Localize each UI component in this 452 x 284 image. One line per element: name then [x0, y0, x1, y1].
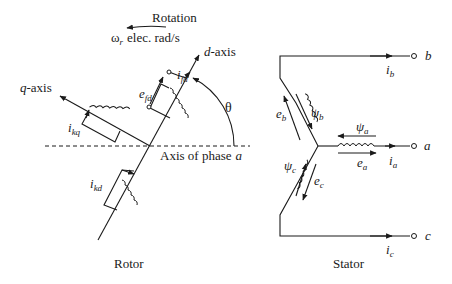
terminal-c-label: c [425, 228, 431, 243]
rotor-section: Rotation ωrelec. rad/s Axis of phasea d-… [20, 10, 250, 271]
ib-label: ib [386, 62, 395, 79]
psic-label: ψc [284, 158, 296, 175]
psib-arrow-icon [296, 94, 312, 129]
field-winding: efd ifd [139, 67, 190, 118]
rotor-caption: Rotor [114, 256, 144, 271]
efd-label: efd [139, 86, 152, 103]
terminal-a[interactable] [412, 144, 417, 149]
terminal-a-label: a [424, 138, 431, 153]
ec-label: ec [314, 173, 324, 190]
ikd-label: ikd [90, 176, 103, 193]
rotation-indicator: Rotation ωrelec. rad/s [111, 10, 197, 47]
terminal-b[interactable] [412, 54, 417, 59]
stator-section: b ib eb ψb a ψa ea ia [276, 48, 432, 271]
synchronous-machine-diagram: Rotation ωrelec. rad/s Axis of phasea d-… [0, 0, 452, 284]
ic-label: ic [386, 242, 394, 259]
rotation-arrow-icon [127, 26, 166, 28]
kd-damper-winding: ikd [90, 170, 137, 210]
efd-arrow-icon [150, 77, 163, 104]
d-axis-label: d-axis [204, 44, 236, 59]
psic-arrow-icon [296, 164, 306, 196]
q-axis-line [60, 96, 150, 146]
rotation-label: Rotation [152, 10, 197, 25]
psib-label: ψb [311, 105, 324, 122]
ikq-label: ikq [68, 120, 81, 137]
field-terminal-lower[interactable] [147, 105, 151, 109]
field-terminal-upper[interactable] [167, 70, 171, 74]
q-axis-label: q-axis [20, 80, 52, 95]
psia-label: ψa [356, 119, 369, 136]
eb-label: eb [276, 106, 287, 123]
phase-axis-label: Axis of phasea [160, 148, 243, 163]
phase-a-coil-icon [338, 144, 374, 147]
kq-winding-box [82, 113, 120, 142]
terminal-c[interactable] [412, 234, 417, 239]
kd-winding-box [104, 170, 134, 210]
theta-label: θ [225, 100, 232, 115]
eb-arrow-icon [284, 96, 300, 140]
kq-coil-icon [90, 91, 130, 125]
ia-label: ia [389, 153, 398, 170]
omega-label: ωrelec. rad/s [111, 30, 180, 47]
terminal-b-label: b [425, 48, 432, 63]
kq-damper-winding: ikq [68, 91, 130, 142]
stator-caption: Stator [333, 256, 365, 271]
ea-label: ea [357, 155, 368, 172]
